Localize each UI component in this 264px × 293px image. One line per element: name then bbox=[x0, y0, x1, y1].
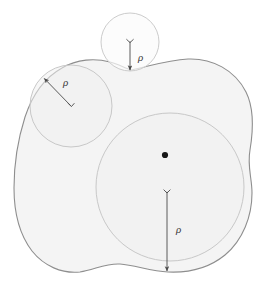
rho-label-large-circle: ρ bbox=[175, 223, 181, 235]
diagram-svg: ρ ρ ρ bbox=[0, 0, 264, 293]
large-circle-center-dot bbox=[162, 152, 168, 158]
rho-label-upper-left-circle: ρ bbox=[62, 76, 68, 88]
rho-label-top-circle: ρ bbox=[137, 51, 143, 63]
large-lower-right-circle bbox=[96, 113, 244, 261]
figure-canvas: ρ ρ ρ bbox=[0, 0, 264, 293]
